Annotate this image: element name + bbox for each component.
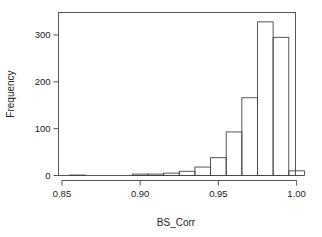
x-axis-title: BS_Corr bbox=[157, 217, 196, 228]
x-tick-label: 0.90 bbox=[131, 188, 150, 199]
plot-frame bbox=[59, 13, 296, 176]
histogram-bar bbox=[148, 174, 164, 175]
x-tick-label: 1.00 bbox=[287, 188, 306, 199]
histogram-bar bbox=[273, 37, 289, 175]
x-tick-label: 0.95 bbox=[209, 188, 228, 199]
histogram-bars bbox=[70, 22, 305, 176]
y-tick-label: 100 bbox=[35, 123, 51, 134]
histogram-bar bbox=[257, 22, 273, 176]
histogram-bar bbox=[226, 132, 242, 176]
histogram-bar bbox=[132, 174, 148, 175]
histogram-bar bbox=[164, 173, 180, 175]
x-axis: 0.850.900.951.00 bbox=[53, 181, 306, 199]
y-axis-title: Frequency bbox=[5, 70, 16, 117]
histogram-figure: 0100200300 0.850.900.951.00 BS_Corr Freq… bbox=[0, 0, 322, 237]
histogram-bar bbox=[195, 167, 211, 175]
histogram-bar bbox=[211, 158, 227, 176]
histogram-bar bbox=[179, 171, 195, 175]
y-axis: 0100200300 bbox=[35, 29, 59, 181]
y-tick-label: 200 bbox=[35, 76, 51, 87]
y-tick-label: 300 bbox=[35, 29, 51, 40]
histogram-bar bbox=[242, 98, 258, 176]
x-tick-label: 0.85 bbox=[53, 188, 72, 199]
histogram-bar bbox=[289, 171, 305, 176]
y-tick-label: 0 bbox=[45, 170, 50, 181]
